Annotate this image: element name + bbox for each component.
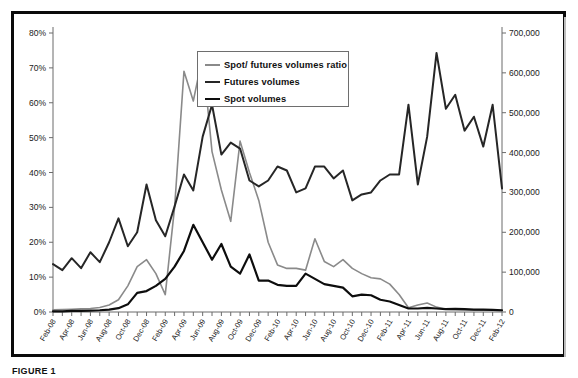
svg-text:200,000: 200,000	[509, 227, 540, 237]
svg-text:Oct-09: Oct-09	[226, 318, 245, 342]
svg-text:70%: 70%	[29, 63, 46, 73]
svg-text:Apr-08: Apr-08	[57, 318, 76, 342]
svg-text:Dec-08: Dec-08	[131, 318, 151, 344]
svg-text:Dec-11: Dec-11	[468, 318, 488, 343]
svg-text:Oct-10: Oct-10	[338, 318, 357, 342]
x-axis: Feb-08Apr-08Jun-08Aug-08Oct-08Dec-08Feb-…	[38, 312, 507, 343]
figure-root: 0%10%20%30%40%50%60%70%80% 0100,000200,0…	[0, 0, 578, 378]
legend-label-futures: Futures volumes	[224, 77, 300, 87]
svg-text:Jun-09: Jun-09	[188, 318, 207, 343]
svg-text:Feb-12: Feb-12	[487, 318, 507, 343]
svg-text:0: 0	[509, 307, 514, 317]
svg-text:40%: 40%	[29, 168, 46, 178]
svg-text:Apr-09: Apr-09	[170, 318, 189, 342]
svg-text:Jun-08: Jun-08	[76, 318, 95, 343]
svg-text:50%: 50%	[29, 133, 46, 143]
svg-text:Aug-11: Aug-11	[431, 318, 451, 343]
svg-text:Oct-11: Oct-11	[450, 318, 469, 342]
svg-text:100,000: 100,000	[509, 267, 540, 277]
legend-swatch-futures	[205, 81, 220, 83]
svg-text:Jun-10: Jun-10	[300, 318, 319, 343]
svg-text:Oct-08: Oct-08	[113, 318, 132, 342]
svg-text:300,000: 300,000	[509, 187, 540, 197]
legend-item-ratio: Spot/ futures volumes ratio	[205, 57, 342, 73]
svg-text:Apr-10: Apr-10	[282, 318, 301, 342]
svg-text:400,000: 400,000	[509, 148, 540, 158]
svg-text:Aug-10: Aug-10	[318, 318, 338, 344]
svg-text:Dec-10: Dec-10	[356, 318, 376, 344]
svg-text:Aug-09: Aug-09	[206, 318, 226, 344]
svg-text:Feb-10: Feb-10	[262, 318, 282, 343]
svg-text:Feb-11: Feb-11	[375, 318, 395, 343]
svg-text:30%: 30%	[29, 202, 46, 212]
svg-text:Dec-09: Dec-09	[243, 318, 263, 344]
legend-item-spot: Spot volumes	[205, 91, 342, 107]
svg-text:0%: 0%	[34, 307, 47, 317]
svg-text:20%: 20%	[29, 237, 46, 247]
right-axis: 0100,000200,000300,000400,000500,000600,…	[502, 27, 540, 317]
svg-text:60%: 60%	[29, 98, 46, 108]
legend-item-futures: Futures volumes	[205, 74, 342, 90]
figure-caption: FIGURE 1	[12, 366, 56, 378]
svg-text:80%: 80%	[29, 28, 46, 38]
legend-label-spot: Spot volumes	[224, 94, 286, 104]
svg-text:600,000: 600,000	[509, 68, 540, 78]
svg-text:Apr-11: Apr-11	[394, 318, 413, 342]
legend-swatch-spot	[205, 98, 220, 100]
legend-swatch-ratio	[205, 64, 220, 66]
chart-legend: Spot/ futures volumes ratio Futures volu…	[197, 51, 349, 107]
left-axis: 0%10%20%30%40%50%60%70%80%	[29, 27, 53, 317]
svg-text:500,000: 500,000	[509, 108, 540, 118]
svg-text:Feb-08: Feb-08	[38, 318, 58, 343]
figure-frame: 0%10%20%30%40%50%60%70%80% 0100,000200,0…	[11, 11, 566, 357]
legend-label-ratio: Spot/ futures volumes ratio	[224, 60, 347, 70]
svg-text:Feb-09: Feb-09	[150, 318, 170, 343]
svg-text:700,000: 700,000	[509, 28, 540, 38]
svg-text:Aug-08: Aug-08	[94, 318, 114, 344]
svg-text:10%: 10%	[29, 272, 46, 282]
svg-text:Jun-11: Jun-11	[413, 318, 432, 342]
